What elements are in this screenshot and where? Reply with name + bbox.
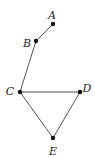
- node-c: [18, 90, 22, 94]
- node-label-d: D: [82, 82, 92, 95]
- node-label-e: E: [48, 145, 57, 157]
- graph-diagram: ABCDE: [0, 0, 95, 157]
- edge-c-e: [20, 92, 53, 138]
- node-label-a: A: [47, 9, 56, 22]
- node-label-b: B: [22, 37, 31, 50]
- node-label-c: C: [6, 85, 15, 98]
- edge-d-e: [53, 92, 80, 138]
- node-a: [51, 22, 55, 26]
- node-d: [78, 90, 82, 94]
- edge-a-b: [36, 24, 53, 41]
- node-e: [51, 136, 55, 140]
- labels: ABCDE: [6, 9, 92, 157]
- node-b: [34, 39, 38, 43]
